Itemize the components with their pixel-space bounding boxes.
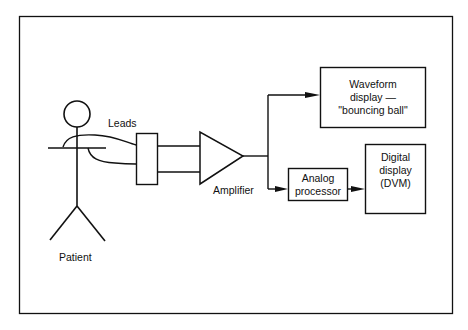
arrow-to-analog-icon (275, 186, 288, 192)
arrow-to-digital-icon (351, 186, 365, 192)
amplifier-triangle (200, 132, 243, 184)
patient-label: Patient (59, 251, 92, 263)
lead-wires (63, 135, 136, 164)
analog-line-1: Analog (302, 172, 335, 185)
patient-head (64, 101, 90, 127)
waveform-line-1: Waveform (349, 78, 396, 91)
waveform-line-3: "bouncing ball" (338, 104, 407, 117)
waveform-display-text: Waveform display — "bouncing ball" (321, 68, 425, 127)
lead-wire-upper (63, 135, 136, 147)
leads-label: Leads (108, 117, 137, 129)
digital-line-1: Digital (381, 151, 410, 164)
patient-figure (48, 101, 106, 241)
analog-processor-text: Analog processor (289, 169, 347, 200)
digital-line-3: (DVM) (380, 177, 410, 190)
patient-left-leg (50, 206, 77, 240)
lead-wire-lower (88, 148, 136, 164)
arrow-to-waveform-icon (305, 92, 320, 98)
digital-display-text: Digital display (DVM) (366, 145, 425, 195)
analog-line-2: processor (295, 185, 341, 198)
amplifier-label: Amplifier (213, 184, 254, 196)
waveform-line-2: display — (350, 91, 396, 104)
patient-right-leg (77, 206, 105, 241)
digital-line-2: display (379, 164, 412, 177)
lead-connector-block (137, 134, 158, 185)
